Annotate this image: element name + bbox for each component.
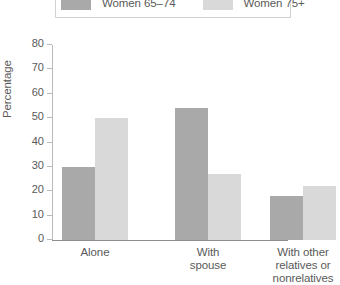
y-axis-tick-label-30: 30 [32, 159, 44, 171]
chart-legend: Women 65–74 Women 75+ [55, 0, 291, 18]
y-axis-tick-40: 40 [47, 142, 52, 143]
y-axis-tick-label-40: 40 [32, 135, 44, 147]
legend-label-women-75-plus: Women 75+ [244, 0, 305, 9]
y-axis-tick-label-80: 80 [32, 37, 44, 49]
y-axis-tick-70: 70 [47, 68, 52, 69]
y-axis-tick-80: 80 [47, 44, 52, 45]
y-axis-tick-0: 0 [47, 239, 52, 240]
bar [175, 108, 208, 240]
y-axis-tick-50: 50 [47, 117, 52, 118]
y-axis-line [52, 45, 53, 241]
y-axis-tick-label-10: 10 [32, 208, 44, 220]
plot-area: 01020304050607080 [52, 45, 288, 241]
x-axis-category-label-line: With [158, 246, 258, 259]
y-axis-tick-60: 60 [47, 93, 52, 94]
y-axis-tick-label-50: 50 [32, 110, 44, 122]
legend-swatch-women-65-74 [61, 0, 91, 10]
legend-swatch-women-75-plus [203, 0, 233, 10]
y-axis-title: Percentage [1, 60, 13, 118]
bar [303, 186, 336, 240]
x-axis-category-label: Alone [45, 246, 145, 259]
y-axis-tick-label-70: 70 [32, 61, 44, 73]
legend-label-women-65-74: Women 65–74 [102, 0, 176, 9]
bar [208, 174, 241, 240]
bar [62, 167, 95, 240]
y-axis-tick-10: 10 [47, 215, 52, 216]
x-axis-category-label: With otherrelatives ornonrelatives [253, 246, 340, 285]
x-axis-category-label: Withspouse [158, 246, 258, 272]
y-axis-tick-20: 20 [47, 190, 52, 191]
x-axis-line [52, 240, 288, 241]
y-axis-tick-label-0: 0 [38, 232, 44, 244]
y-axis-tick-label-60: 60 [32, 86, 44, 98]
x-axis-category-label-line: relatives or [253, 259, 340, 272]
legend-item-women-75-plus: Women 75+ [203, 0, 305, 17]
x-axis-category-label-line: nonrelatives [253, 272, 340, 285]
x-axis-category-label-line: With other [253, 246, 340, 259]
x-axis-category-label-line: spouse [158, 259, 258, 272]
x-axis-category-label-line: Alone [45, 246, 145, 259]
bar [95, 118, 128, 240]
bar [270, 196, 303, 240]
y-axis-tick-label-20: 20 [32, 183, 44, 195]
legend-item-women-65-74: Women 65–74 [61, 0, 176, 17]
y-axis-tick-30: 30 [47, 166, 52, 167]
